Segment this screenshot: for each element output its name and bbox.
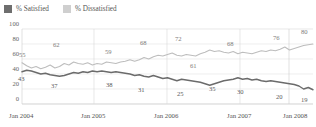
- data-label-sat-8: 19: [301, 97, 308, 104]
- data-label-sat-0: 43: [18, 76, 25, 83]
- series-line-satisfied: [22, 70, 313, 90]
- data-label-dis-4: 72: [175, 36, 182, 43]
- data-label-sat-3: 31: [138, 87, 145, 94]
- data-label-sat-6: 30: [237, 89, 244, 96]
- data-label-dis-2: 59: [105, 49, 112, 56]
- gridlines-vertical: [22, 29, 289, 104]
- data-label-dis-0: 55: [19, 52, 26, 59]
- x-tick-2: Jan 2006: [154, 112, 178, 119]
- data-label-dis-6: 68: [227, 41, 234, 48]
- satisfaction-line-chart: % Satisfied % Dissatisfied 100 80 60 40 …: [0, 0, 316, 127]
- x-tick-1: Jan 2005: [81, 112, 105, 119]
- x-tick-3: Jan 2007: [227, 112, 251, 119]
- data-label-dis-1: 62: [53, 42, 60, 49]
- data-label-dis-3: 68: [140, 40, 147, 47]
- data-label-dis-5: 61: [190, 63, 197, 70]
- data-label-sat-5: 35: [209, 86, 216, 93]
- data-label-sat-1: 37: [51, 83, 58, 90]
- data-label-sat-7: 20: [276, 94, 283, 101]
- data-label-dis-7: 76: [273, 35, 280, 42]
- data-label-dis-8: 80: [301, 29, 308, 36]
- x-tick-0: Jan 2004: [9, 112, 33, 119]
- data-label-sat-4: 25: [177, 91, 184, 98]
- x-tick-4: Jan 2008: [283, 112, 307, 119]
- x-axis: Jan 2004 Jan 2005 Jan 2006 Jan 2007 Jan …: [0, 108, 316, 124]
- series-line-dissatisfied: [22, 44, 313, 69]
- data-label-sat-2: 38: [106, 82, 113, 89]
- gridlines-horizontal: [22, 29, 313, 104]
